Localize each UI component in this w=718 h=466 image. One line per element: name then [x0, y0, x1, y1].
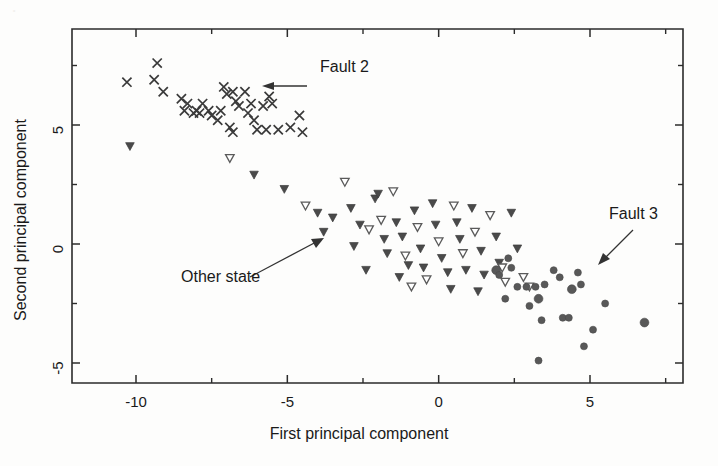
- data-point-circle: [541, 281, 548, 288]
- annotation-arrows: [250, 82, 633, 277]
- data-point-triangle: [410, 207, 419, 215]
- data-point-triangle: [398, 233, 407, 241]
- data-point-triangle: [250, 171, 259, 179]
- y-axis-ticks: [72, 66, 683, 364]
- data-point-cross: [159, 87, 168, 96]
- data-point-triangle: [356, 221, 365, 229]
- figure-container: . -10-505 50-5: [0, 0, 718, 466]
- series-fault3-markers: [492, 255, 649, 364]
- data-point-triangle: [474, 288, 483, 296]
- data-point-cross: [246, 99, 255, 108]
- data-point-cross: [195, 109, 204, 118]
- data-point-cross: [204, 106, 213, 115]
- data-point-triangle: [401, 252, 410, 260]
- data-point-circle: [532, 283, 539, 290]
- y-tick-label: 5: [49, 126, 66, 134]
- data-point-cross: [216, 106, 225, 115]
- y-tick-label: -5: [49, 361, 66, 374]
- annotation-label-other-state: Other state: [181, 268, 260, 285]
- data-point-cross: [225, 123, 234, 132]
- background-bleed: .: [12, 0, 16, 16]
- data-point-triangle: [392, 219, 401, 227]
- data-point-triangle: [519, 274, 528, 282]
- data-point-circle: [514, 283, 521, 290]
- data-point-cross: [228, 128, 237, 137]
- data-point-circle: [602, 300, 609, 307]
- data-point-cross: [252, 125, 261, 134]
- x-tick-labels: -10-505: [125, 393, 594, 410]
- data-point-triangle: [226, 155, 235, 163]
- data-point-triangle: [480, 271, 489, 279]
- data-point-triangle: [446, 285, 455, 293]
- data-point-cross: [249, 116, 258, 125]
- data-point-triangle: [319, 228, 328, 236]
- data-point-triangle: [280, 185, 289, 193]
- data-point-circle: [496, 271, 503, 278]
- data-point-circle: [640, 318, 649, 327]
- scatter-plot: . -10-505 50-5: [0, 0, 718, 466]
- data-point-triangle: [422, 276, 431, 284]
- data-point-triangle: [328, 214, 337, 222]
- y-tick-labels: 50-5: [49, 126, 66, 375]
- y-axis-title: Second principal component: [12, 118, 29, 320]
- data-point-triangle: [301, 202, 310, 210]
- data-point-cross: [213, 116, 222, 125]
- data-point-triangle: [471, 228, 480, 236]
- data-point-cross: [240, 87, 249, 96]
- x-tick-label: -10: [125, 393, 147, 410]
- data-point-circle: [534, 294, 543, 303]
- data-point-triangle: [377, 216, 386, 224]
- data-point-triangle: [477, 247, 486, 255]
- data-point-triangle: [453, 219, 462, 227]
- x-tick-label: 5: [586, 393, 594, 410]
- data-point-triangle: [347, 205, 356, 213]
- data-point-circle: [550, 267, 557, 274]
- data-point-cross: [295, 111, 304, 120]
- x-tick-label: 0: [434, 393, 442, 410]
- data-point-triangle: [468, 205, 477, 213]
- annotation-label-fault3: Fault 3: [609, 205, 658, 222]
- annotation-label-fault2: Fault 2: [320, 58, 369, 75]
- data-point-triangle: [407, 283, 416, 291]
- x-axis-ticks: [136, 29, 666, 383]
- data-point-circle: [508, 264, 515, 271]
- data-point-triangle: [395, 274, 404, 282]
- data-point-triangle: [404, 262, 413, 270]
- data-point-triangle: [383, 250, 392, 258]
- y-tick-label: 0: [49, 245, 66, 253]
- data-point-triangle: [492, 233, 501, 241]
- data-point-circle: [574, 269, 581, 276]
- data-point-triangle: [341, 178, 350, 186]
- data-point-triangle: [416, 245, 425, 253]
- data-point-cross: [286, 123, 295, 132]
- data-point-triangle: [443, 269, 452, 277]
- x-axis-title: First principal component: [270, 425, 449, 442]
- data-point-circle: [577, 281, 584, 288]
- data-point-triangle: [507, 209, 516, 217]
- data-point-cross: [177, 94, 186, 103]
- data-point-triangle: [428, 200, 437, 208]
- data-point-cross: [234, 101, 243, 110]
- data-point-circle: [567, 285, 576, 294]
- data-point-triangle: [419, 264, 428, 272]
- data-point-triangle: [450, 202, 459, 210]
- data-point-triangle: [486, 212, 495, 220]
- data-point-circle: [523, 283, 530, 290]
- data-point-triangle: [462, 266, 471, 274]
- data-point-cross: [150, 75, 159, 84]
- data-point-triangle: [437, 254, 446, 262]
- data-point-triangle: [431, 221, 440, 229]
- data-point-triangle: [380, 235, 389, 243]
- data-point-triangle: [513, 245, 522, 253]
- fault3-arrow: [598, 230, 633, 265]
- data-point-cross: [259, 101, 268, 110]
- data-point-cross: [231, 97, 240, 106]
- svg-text:.: .: [12, 0, 16, 16]
- data-point-circle: [538, 317, 545, 324]
- data-point-cross: [298, 128, 307, 137]
- data-point-triangle: [365, 226, 374, 234]
- data-point-triangle: [434, 238, 443, 246]
- data-point-triangle: [313, 209, 322, 217]
- data-point-circle: [526, 302, 533, 309]
- data-point-triangle: [459, 250, 468, 258]
